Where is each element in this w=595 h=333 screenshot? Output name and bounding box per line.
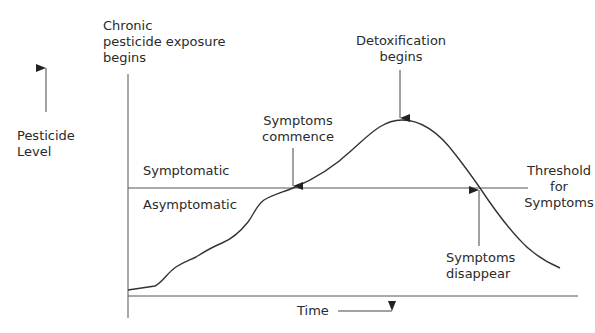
chronic-line2: pesticide exposure <box>103 34 226 50</box>
ylabel-line2: Level <box>17 144 75 160</box>
y-axis-label: Pesticide Level <box>17 128 75 160</box>
commence-line2: commence <box>258 129 338 145</box>
commence-line1: Symptoms <box>258 113 338 129</box>
detoxification-label: Detoxification begins <box>353 33 449 65</box>
chart-canvas <box>0 0 595 333</box>
chronic-line3: begins <box>103 50 226 66</box>
symptoms-disappear-label: Symptoms disappear <box>446 250 515 282</box>
x-axis-label: Time <box>297 303 329 319</box>
symptoms-commence-label: Symptoms commence <box>258 113 338 145</box>
threshold-line1: Threshold <box>524 163 594 179</box>
asymptomatic-label: Asymptomatic <box>143 197 237 213</box>
threshold-line2: for <box>524 179 594 195</box>
detox-line1: Detoxification <box>353 33 449 49</box>
disappear-line2: disappear <box>446 266 515 282</box>
ylabel-line1: Pesticide <box>17 128 75 144</box>
disappear-line1: Symptoms <box>446 250 515 266</box>
chronic-exposure-label: Chronic pesticide exposure begins <box>103 18 226 66</box>
chronic-line1: Chronic <box>103 18 226 34</box>
threshold-label: Threshold for Symptoms <box>524 163 594 211</box>
detox-line2: begins <box>353 49 449 65</box>
symptomatic-label: Symptomatic <box>143 163 229 179</box>
threshold-line3: Symptoms <box>524 195 594 211</box>
